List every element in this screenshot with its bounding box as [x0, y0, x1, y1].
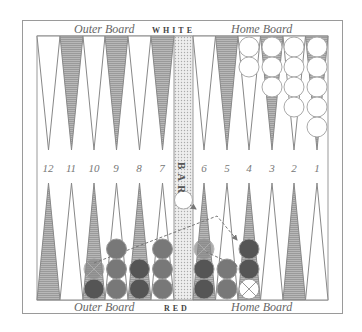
red-checker[interactable] — [84, 279, 104, 299]
white-checker[interactable] — [239, 57, 259, 77]
red-checker[interactable] — [153, 239, 173, 259]
white-checker[interactable] — [262, 37, 282, 57]
red-checker[interactable] — [194, 259, 214, 279]
point-number: 12 — [37, 162, 59, 174]
bar-label: BAR — [176, 162, 188, 197]
point-number: 7 — [151, 162, 173, 174]
point-number: 4 — [238, 162, 260, 174]
point-number: 5 — [216, 162, 238, 174]
white-checker[interactable] — [307, 97, 327, 117]
red-checker[interactable] — [217, 259, 237, 279]
red-checker[interactable] — [239, 259, 259, 279]
red-checker[interactable] — [130, 279, 150, 299]
white-checker[interactable] — [307, 57, 327, 77]
white-checker[interactable] — [307, 117, 327, 137]
white-checker[interactable] — [262, 77, 282, 97]
point-number: 6 — [193, 162, 215, 174]
red-checker[interactable] — [107, 259, 127, 279]
red-checker[interactable] — [217, 279, 237, 299]
white-checker[interactable] — [284, 97, 304, 117]
red-checker[interactable] — [153, 259, 173, 279]
red-checker[interactable] — [194, 279, 214, 299]
white-checker[interactable] — [284, 57, 304, 77]
white-checker[interactable] — [307, 77, 327, 97]
red-checker[interactable] — [153, 279, 173, 299]
point-number: 2 — [283, 162, 305, 174]
white-checker[interactable] — [284, 37, 304, 57]
point-number: 11 — [60, 162, 82, 174]
red-checker[interactable] — [239, 239, 259, 259]
white-checker[interactable] — [307, 37, 327, 57]
point-number: 3 — [261, 162, 283, 174]
point-number: 10 — [83, 162, 105, 174]
point-number: 1 — [306, 162, 328, 174]
white-checker[interactable] — [239, 37, 259, 57]
red-checker[interactable] — [107, 239, 127, 259]
point-number: 8 — [128, 162, 150, 174]
point-number: 9 — [105, 162, 127, 174]
white-checker[interactable] — [284, 77, 304, 97]
red-checker[interactable] — [130, 259, 150, 279]
red-checker[interactable] — [107, 279, 127, 299]
white-checker[interactable] — [262, 57, 282, 77]
